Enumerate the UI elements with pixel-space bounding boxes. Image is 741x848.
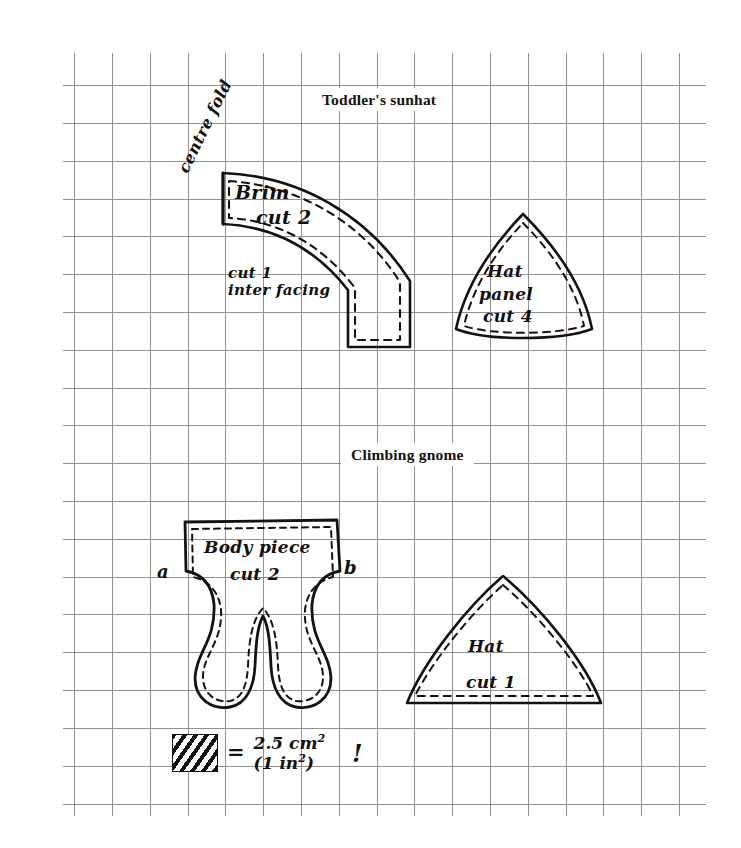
legend-imperial-exponent: 2 <box>298 752 306 765</box>
label-interfacing-line1: cut 1 <box>228 264 272 282</box>
legend-imperial-close: ) <box>306 753 314 773</box>
legend-exclamation: ! <box>352 739 363 768</box>
label-interfacing-line2: inter facing <box>228 281 330 299</box>
pattern-sheet: Toddler's sunhat Climbing gnome centre f… <box>0 0 741 848</box>
label-brim-cut-count: cut 2 <box>256 207 312 228</box>
label-body-piece: Body piece <box>204 538 311 557</box>
label-gnome-hat: Hat <box>468 637 504 656</box>
section-title-sunhat: Toddler's sunhat <box>312 88 446 111</box>
marker-a: a <box>157 562 169 582</box>
legend-metric-exponent: 2 <box>317 732 325 745</box>
pattern-artwork <box>0 0 741 848</box>
label-interfacing: cut 1inter facing <box>228 265 330 299</box>
legend-metric-value: 2.5 cm <box>254 733 318 753</box>
marker-b: b <box>344 558 357 578</box>
label-brim: Brim <box>235 182 290 203</box>
label-hat-panel-line2: panel <box>479 285 533 304</box>
label-gnome-hat-cut-count: cut 1 <box>466 673 516 692</box>
label-hat-panel-line1: Hat <box>487 262 523 281</box>
legend-equals-sign: = <box>227 739 245 768</box>
label-body-cut-count: cut 2 <box>230 565 280 584</box>
legend-imperial-open: (1 in <box>254 753 299 773</box>
hatched-square-icon <box>172 734 218 772</box>
label-hat-panel-cut-count: cut 4 <box>483 307 533 326</box>
section-title-gnome: Climbing gnome <box>341 443 474 466</box>
legend-measurement: 2.5 cm2(1 in2) <box>254 733 326 773</box>
scale-legend: = 2.5 cm2(1 in2) ! <box>172 733 363 773</box>
